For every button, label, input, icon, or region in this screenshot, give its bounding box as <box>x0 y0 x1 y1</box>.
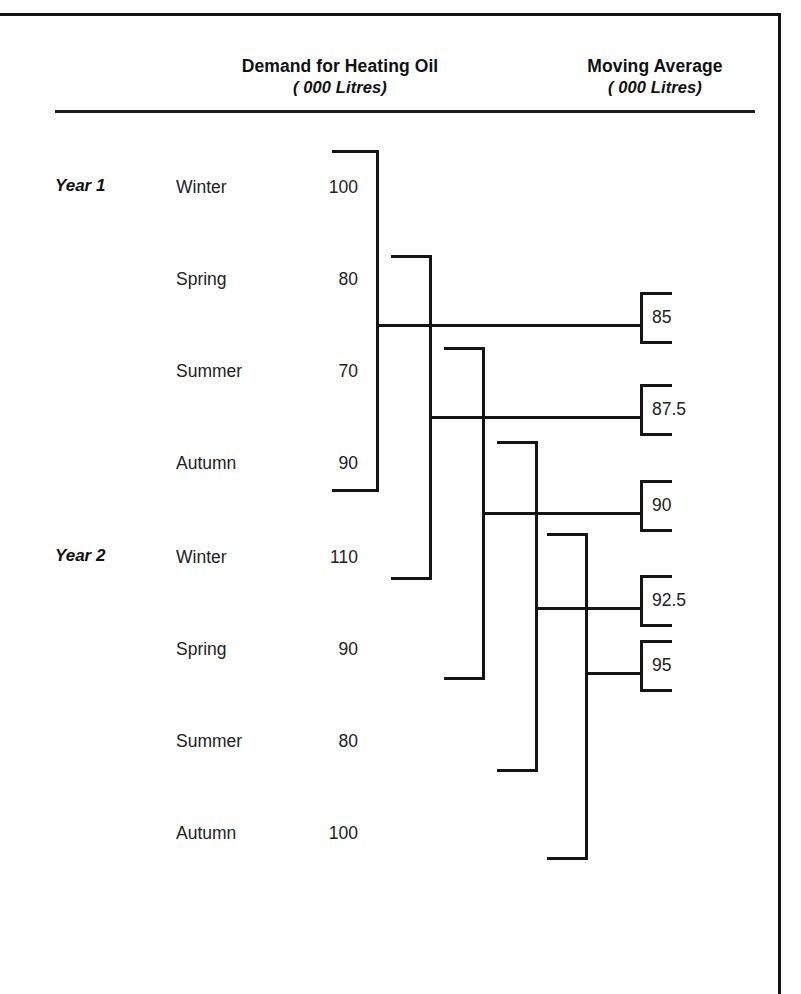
moving-average-value-90: 90 <box>652 495 671 516</box>
season-label-y2-autumn: Autumn <box>176 823 236 844</box>
ma-bracket-2-bottom-arm <box>640 433 672 436</box>
ma-bracket-1-spine <box>640 292 643 344</box>
demand-value-y2-spring: 90 <box>278 639 358 660</box>
season-label-y1-spring: Spring <box>176 269 227 290</box>
bracket-5-spine <box>585 533 588 860</box>
ma-bracket-5-top-arm <box>640 640 672 643</box>
ma-bracket-4-spine <box>640 575 643 627</box>
diagram-page: Demand for Heating Oil ( 000 Litres) Mov… <box>0 0 801 994</box>
season-label-y2-winter: Winter <box>176 547 227 568</box>
moving-average-value-92-5: 92.5 <box>652 590 686 611</box>
bracket-5-top-arm <box>547 533 587 536</box>
bracket-3-connector <box>482 512 642 515</box>
demand-value-y2-autumn: 100 <box>278 823 358 844</box>
ma-bracket-1-bottom-arm <box>640 341 672 344</box>
page-border-right <box>778 13 781 994</box>
ma-bracket-2-spine <box>640 384 643 436</box>
ma-bracket-5-bottom-arm <box>640 689 672 692</box>
season-label-y2-summer: Summer <box>176 731 242 752</box>
bracket-1-top-arm <box>332 150 378 153</box>
season-label-y1-autumn: Autumn <box>176 453 236 474</box>
ma-bracket-4-top-arm <box>640 575 672 578</box>
column-header-moving-average: Moving Average ( 000 Litres) <box>540 56 770 98</box>
year-label-1: Year 1 <box>55 176 105 196</box>
ma-bracket-5-spine <box>640 640 643 692</box>
demand-value-y1-spring: 80 <box>278 269 358 290</box>
column-header-moving-average-title: Moving Average <box>587 56 722 76</box>
column-header-moving-average-units: ( 000 Litres) <box>540 77 770 98</box>
bracket-5-bottom-arm <box>547 857 587 860</box>
season-label-y1-winter: Winter <box>176 177 227 198</box>
bracket-3-top-arm <box>444 347 484 350</box>
column-header-demand-units: ( 000 Litres) <box>190 77 490 98</box>
bracket-4-top-arm <box>497 441 537 444</box>
season-label-y2-spring: Spring <box>176 639 227 660</box>
demand-value-y2-summer: 80 <box>278 731 358 752</box>
bracket-3-bottom-arm <box>444 677 484 680</box>
ma-bracket-4-bottom-arm <box>640 624 672 627</box>
bracket-2-top-arm <box>391 255 431 258</box>
demand-value-y1-summer: 70 <box>278 361 358 382</box>
moving-average-value-85: 85 <box>652 307 671 328</box>
ma-bracket-1-top-arm <box>640 292 672 295</box>
bracket-2-bottom-arm <box>391 577 431 580</box>
moving-average-value-87-5: 87.5 <box>652 399 686 420</box>
header-divider-rule <box>55 110 755 113</box>
column-header-demand: Demand for Heating Oil ( 000 Litres) <box>190 56 490 98</box>
bracket-1-connector <box>376 324 642 327</box>
season-label-y1-summer: Summer <box>176 361 242 382</box>
page-border-top <box>0 13 781 16</box>
demand-value-y2-winter: 110 <box>278 547 358 568</box>
demand-value-y1-autumn: 90 <box>278 453 358 474</box>
ma-bracket-2-top-arm <box>640 384 672 387</box>
bracket-4-bottom-arm <box>497 769 537 772</box>
bracket-4-connector <box>535 607 642 610</box>
demand-value-y1-winter: 100 <box>278 177 358 198</box>
ma-bracket-3-bottom-arm <box>640 529 672 532</box>
ma-bracket-3-spine <box>640 480 643 532</box>
year-label-2: Year 2 <box>55 546 105 566</box>
column-header-demand-title: Demand for Heating Oil <box>242 56 439 76</box>
moving-average-value-95: 95 <box>652 655 671 676</box>
bracket-5-connector <box>585 672 642 675</box>
ma-bracket-3-top-arm <box>640 480 672 483</box>
bracket-2-connector <box>429 416 642 419</box>
bracket-1-bottom-arm <box>332 489 378 492</box>
bracket-1-spine <box>376 150 379 492</box>
